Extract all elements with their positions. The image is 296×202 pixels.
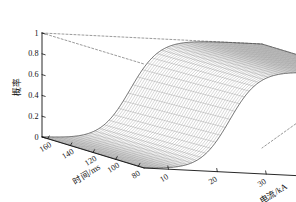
svg-text:0.4: 0.4	[28, 91, 38, 100]
svg-text:0.6: 0.6	[28, 70, 38, 79]
svg-text:0.2: 0.2	[28, 112, 38, 121]
plot-background	[0, 0, 296, 202]
z-axis-title: 概率	[11, 78, 22, 96]
svg-text:0: 0	[34, 133, 38, 142]
svg-text:1: 1	[34, 29, 38, 38]
surface-plot-figure: 00.20.40.60.81160140120100801020304050 概…	[0, 0, 296, 202]
svg-text:0.8: 0.8	[28, 49, 38, 58]
plot-canvas: 00.20.40.60.81160140120100801020304050 概…	[0, 0, 296, 202]
